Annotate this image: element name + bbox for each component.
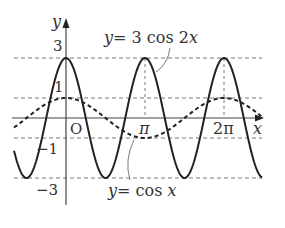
y-tick-1: 1: [54, 80, 64, 95]
x-tick-pi: π: [139, 121, 150, 137]
equation-cosx: y= cos x: [108, 183, 176, 199]
equation-3cos2x: y= 3 cos 2x: [104, 30, 198, 46]
eq1-rhs: = 3 cos 2: [113, 28, 189, 47]
eq2-x: x: [167, 181, 176, 200]
y-axis-label: y: [52, 14, 61, 30]
x-axis-label: x: [253, 121, 262, 137]
y-tick-neg1: −1: [36, 142, 58, 157]
eq2-rhs: = cos: [117, 181, 167, 200]
origin-label: O: [70, 122, 82, 137]
x-tick-2pi: 2π: [213, 121, 234, 137]
cosine-graph: y x O 3 1 −1 −3 π 2π y= 3 cos 2x y= cos …: [0, 0, 285, 228]
y-tick-neg3: −3: [36, 183, 58, 198]
y-tick-3: 3: [53, 39, 63, 54]
eq1-x: x: [189, 28, 198, 47]
eq1-y: y: [104, 28, 113, 47]
leader-line-3cos2x: [156, 48, 170, 72]
eq2-y: y: [108, 181, 117, 200]
y-axis-arrow-icon: [63, 18, 70, 28]
leader-line-cosx: [128, 140, 134, 180]
